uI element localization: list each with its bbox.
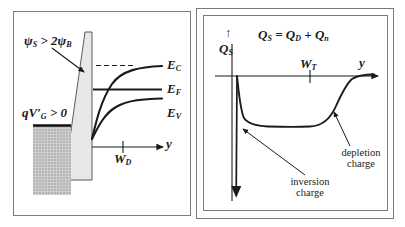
left-axis-label: y	[166, 137, 172, 151]
depletion-charge-line2: charge	[330, 158, 392, 169]
gate-voltage-label: qV′G > 0	[22, 106, 67, 121]
depletion-charge-line1: depletion	[330, 147, 392, 158]
inversion-charge-line1: inversion	[279, 176, 341, 187]
conduction-band-label: EC	[167, 58, 181, 73]
up-arrow-icon: ↑	[225, 26, 232, 40]
inversion-charge-line2: charge	[279, 187, 341, 198]
depletion-charge-annotation: depletion charge	[330, 147, 392, 169]
depletion-width-label: WD	[114, 152, 131, 167]
right-axis-label: y	[359, 56, 365, 70]
fermi-level-label: EF	[167, 82, 181, 97]
surface-potential-condition-label: ψS > 2ψB	[24, 34, 72, 49]
valence-band-label: EV	[167, 106, 181, 121]
charge-equation: QS = QD + Qn	[258, 28, 329, 43]
inversion-charge-annotation: inversion charge	[279, 176, 341, 198]
total-width-label: WT	[300, 57, 316, 72]
charge-axis-label: QS	[219, 42, 233, 57]
figure-root: ψS > 2ψB qV′G > 0 EC EF EV WD y ↑ QS QS …	[0, 0, 405, 227]
